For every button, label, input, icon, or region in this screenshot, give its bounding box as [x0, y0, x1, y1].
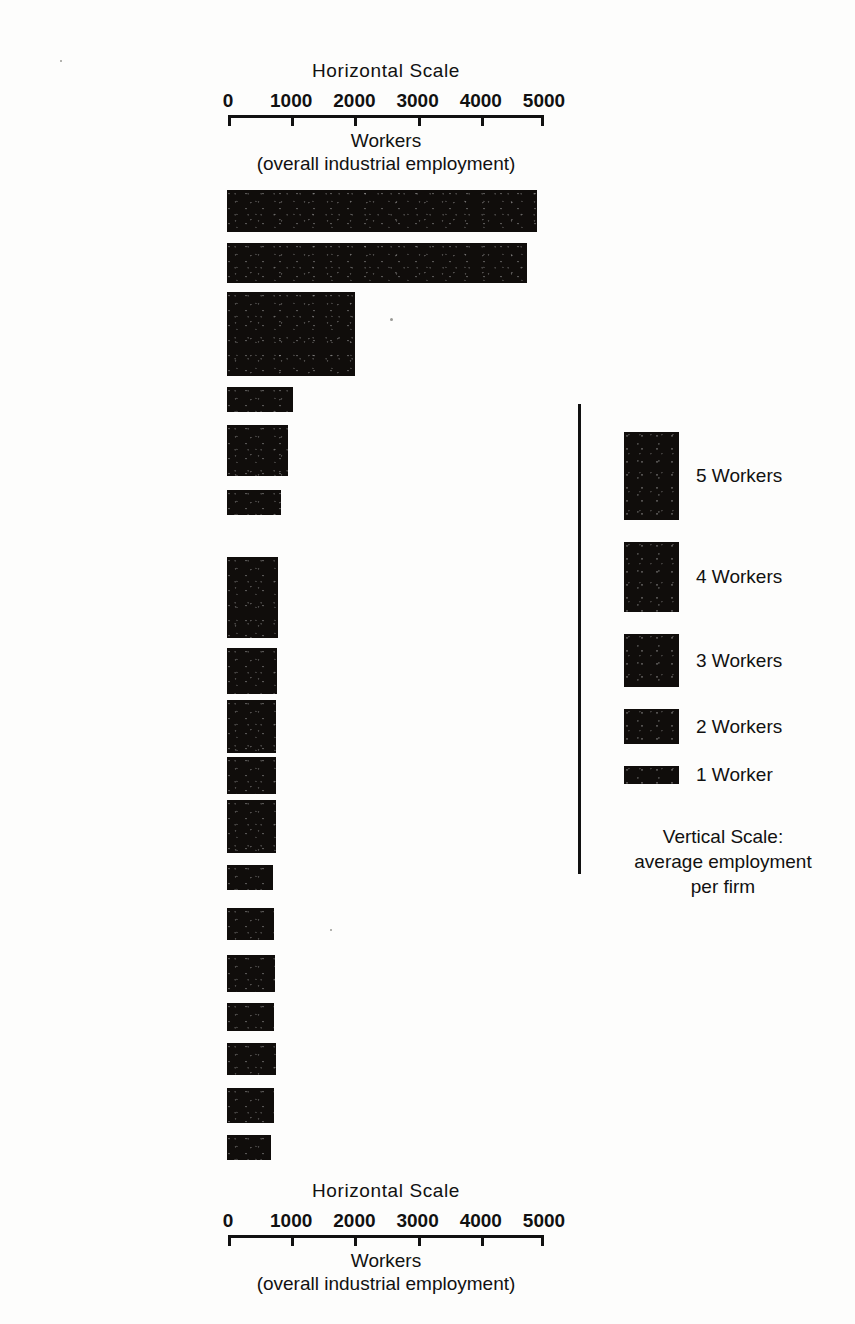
bar-row: Shoe making	[0, 1088, 620, 1123]
bar	[227, 757, 276, 794]
bar	[227, 387, 293, 412]
chart-page: Horizontal Scale 010002000300040005000 W…	[0, 0, 855, 1324]
bar	[227, 490, 281, 515]
bottom-axis-tick-labels: 010002000300040005000	[0, 1210, 855, 1232]
legend-swatch	[624, 542, 679, 612]
bar	[227, 648, 277, 694]
bar-row: Tinsmithing	[0, 490, 620, 515]
legend-entry: 4 Workers	[624, 542, 854, 612]
bottom-axis-title: Horizontal Scale	[228, 1180, 544, 1202]
bar-row: Shoe repair	[0, 865, 620, 890]
bar-row: Carpentry	[0, 243, 620, 283]
bottom-axis-sublabel-workers: Workers	[140, 1250, 632, 1272]
bar-row: Radio repair	[0, 700, 620, 753]
legend-swatch	[624, 634, 679, 687]
legend-caption: Vertical Scale: average employment per f…	[598, 824, 848, 899]
bar	[227, 1088, 274, 1123]
bottom-axis-end-tick-left	[228, 1235, 231, 1246]
bar	[227, 1135, 271, 1160]
bar	[227, 700, 276, 753]
bar-row: Blacksmithing	[0, 757, 620, 794]
axis-tick-mark	[481, 1235, 484, 1246]
bar-row: Welding and battery charging	[0, 800, 620, 853]
legend-vertical-rule	[578, 404, 581, 874]
bar	[227, 1043, 276, 1075]
legend-swatch	[624, 766, 679, 784]
bar-row: Corn milling	[0, 1135, 620, 1160]
bar	[227, 425, 288, 476]
bar-row: Motor repair	[0, 292, 620, 376]
axis-tick-label: 1000	[270, 1210, 312, 1232]
axis-tick-mark	[418, 1235, 421, 1246]
bar	[227, 908, 274, 940]
bar-row: Baking	[0, 425, 620, 476]
bottom-axis-rule	[228, 1235, 544, 1238]
legend-label: 1 Worker	[696, 764, 773, 786]
bar-row: Shoe making: rubber	[0, 1043, 620, 1075]
legend-entry: 5 Workers	[624, 432, 854, 520]
legend-entry: 2 Workers	[624, 709, 854, 744]
bar	[227, 865, 273, 890]
bottom-axis-sublabel-detail: (overall industrial employment)	[140, 1273, 632, 1295]
bar-row: Miscellaneous industries	[0, 648, 620, 694]
axis-tick-label: 3000	[396, 1210, 438, 1232]
bar-row: Minor industries	[0, 387, 620, 412]
axis-tick-label: 0	[223, 1210, 234, 1232]
axis-tick-label: 4000	[460, 1210, 502, 1232]
legend-swatch	[624, 432, 679, 520]
legend-label: 2 Workers	[696, 716, 782, 738]
bar-row: Tailoring	[0, 190, 620, 232]
axis-tick-mark	[354, 1235, 357, 1246]
legend-label: 3 Workers	[696, 650, 782, 672]
axis-tick-mark	[291, 1235, 294, 1246]
legend-label: 4 Workers	[696, 566, 782, 588]
bar	[227, 190, 537, 232]
bottom-axis-line	[228, 1235, 544, 1247]
bar-row: Photography	[0, 908, 620, 940]
legend-swatch	[624, 709, 679, 744]
axis-tick-label: 2000	[333, 1210, 375, 1232]
bar	[227, 1003, 274, 1031]
bar	[227, 800, 276, 853]
bar-row: Mattress making	[0, 1003, 620, 1031]
legend: 5 Workers4 Workers3 Workers2 Workers1 Wo…	[578, 404, 855, 884]
bar	[227, 955, 275, 992]
bar-row: Goldsmithing	[0, 955, 620, 992]
legend-entry: 1 Worker	[624, 766, 854, 784]
legend-label: 5 Workers	[696, 465, 782, 487]
bar-row: Printing	[0, 557, 620, 638]
legend-entry: 3 Workers	[624, 634, 854, 687]
bottom-axis-end-tick-right	[541, 1235, 544, 1246]
bar	[227, 557, 278, 638]
axis-tick-label: 5000	[523, 1210, 565, 1232]
bar	[227, 243, 527, 283]
bar	[227, 292, 355, 376]
